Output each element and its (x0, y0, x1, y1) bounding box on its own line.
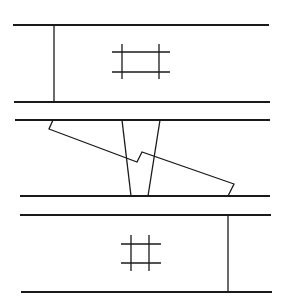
top-hash-mark (112, 44, 170, 79)
stepped-diagonal-strap (49, 120, 234, 196)
diagram-canvas (0, 0, 285, 304)
bottom-hash-mark (121, 235, 161, 271)
middle-panel (15, 120, 270, 196)
top-panel (13, 25, 270, 102)
bottom-panel (20, 215, 272, 292)
